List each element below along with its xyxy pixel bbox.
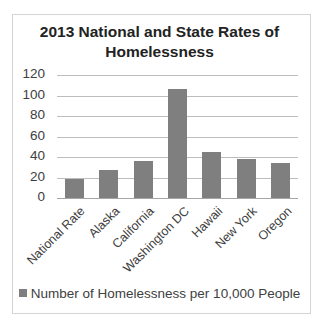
y-tick-label: 20 <box>15 169 45 184</box>
legend-swatch <box>19 289 27 297</box>
bar-oregon <box>271 163 290 198</box>
bar-new-york <box>237 159 256 198</box>
legend: Number of Homelessness per 10,000 People <box>0 286 319 301</box>
y-tick-label: 0 <box>15 189 45 204</box>
bar-hawaii <box>202 152 221 198</box>
y-tick-label: 40 <box>15 148 45 163</box>
bar-alaska <box>99 170 118 198</box>
bar-washington-dc <box>168 89 187 198</box>
y-tick-label: 100 <box>15 87 45 102</box>
chart-title: 2013 National and State Rates of Homeles… <box>0 22 319 62</box>
gridline <box>57 198 298 199</box>
gridline <box>57 75 298 76</box>
chart-title-line2: Homelessness <box>0 42 319 62</box>
y-tick-label: 80 <box>15 107 45 122</box>
y-tick-label: 120 <box>15 66 45 81</box>
chart-title-line1: 2013 National and State Rates of <box>0 22 319 42</box>
y-tick-label: 60 <box>15 128 45 143</box>
legend-label: Number of Homelessness per 10,000 People <box>31 286 300 301</box>
bar-national-rate <box>65 179 84 198</box>
bar-california <box>134 161 153 198</box>
